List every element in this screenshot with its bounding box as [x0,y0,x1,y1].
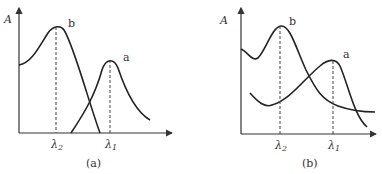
tick-lambda2: λ2 [50,138,63,152]
curve-a-label: a [343,48,350,61]
caption-a: (a) [86,157,101,170]
curve-a-label: a [123,51,130,64]
curve-b-label: b [68,17,75,30]
curve-a [250,60,367,127]
curve-b-label: b [289,15,296,28]
panel-a: A b a λ2 λ1 (a) [3,8,172,170]
panel-b: A b a λ2 λ1 (b) [219,8,376,170]
curve-b [19,27,100,133]
curve-b [241,26,375,112]
caption-b: (b) [302,157,318,170]
tick-lambda1: λ1 [327,139,340,153]
absorption-spectra-figure: A b a λ2 λ1 (a) A b a λ2 λ1 (b) [0,0,382,174]
tick-lambda1: λ1 [104,138,117,152]
tick-lambda2: λ2 [274,139,287,153]
y-axis-label: A [219,14,228,27]
y-axis-label: A [3,13,12,26]
